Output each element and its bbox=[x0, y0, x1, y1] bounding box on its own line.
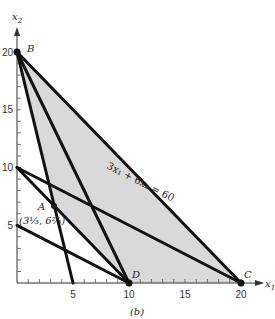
y-tick-15: 15 bbox=[2, 104, 14, 115]
x-tick-5: 5 bbox=[70, 289, 76, 300]
y-axis-label: x2 bbox=[12, 11, 23, 25]
x-axis-arrow-icon bbox=[255, 280, 264, 286]
point-c bbox=[238, 280, 245, 287]
point-b bbox=[14, 49, 21, 56]
figure-caption: (b) bbox=[130, 306, 144, 317]
point-a bbox=[51, 203, 57, 209]
x-axis-label: x1 bbox=[265, 278, 275, 292]
y-axis-arrow-icon bbox=[14, 27, 20, 36]
point-d bbox=[126, 280, 133, 287]
label-d: D bbox=[131, 269, 140, 280]
lp-diagram: 5 10 15 20 5 10 15 20 x2 x1 B A (3⅓, 6⅔)… bbox=[0, 0, 275, 319]
label-a-coords: (3⅓, 6⅔) bbox=[19, 215, 65, 226]
x-tick-15: 15 bbox=[179, 289, 191, 300]
y-tick-10: 10 bbox=[2, 162, 14, 173]
y-tick-20: 20 bbox=[2, 47, 14, 58]
label-b: B bbox=[26, 43, 34, 54]
y-ticks bbox=[17, 52, 21, 272]
x-tick-20: 20 bbox=[235, 289, 247, 300]
label-a: A bbox=[37, 201, 45, 212]
y-tick-5: 5 bbox=[7, 220, 13, 231]
x-tick-10: 10 bbox=[123, 289, 135, 300]
label-c: C bbox=[244, 269, 252, 280]
